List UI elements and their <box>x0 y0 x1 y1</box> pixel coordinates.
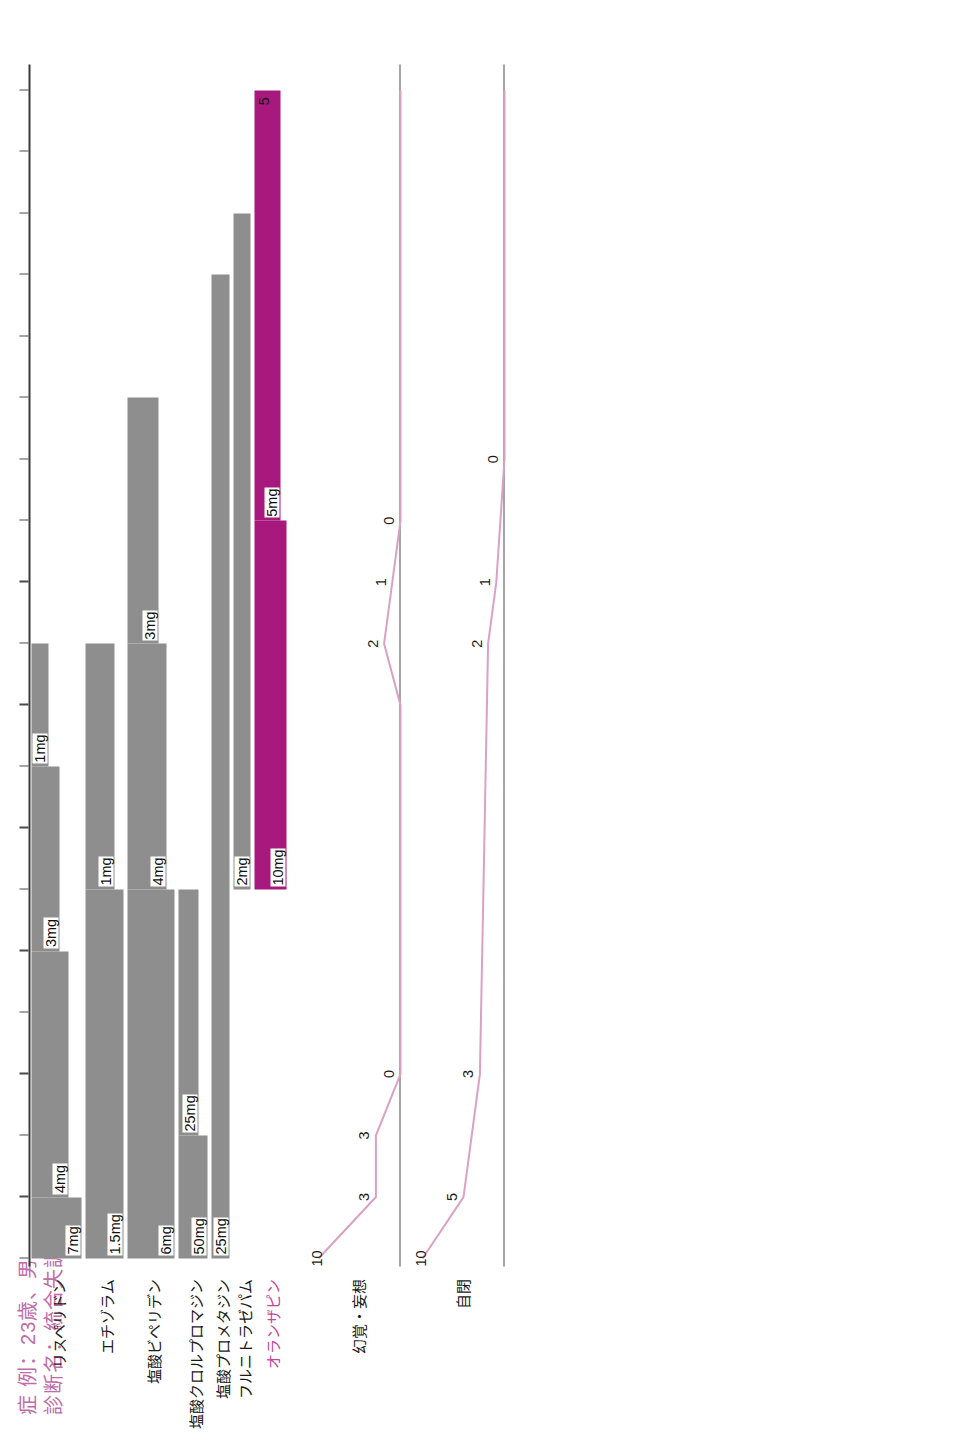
x-tick-mark <box>19 519 28 520</box>
symptom-point-label: 0 <box>484 455 500 463</box>
dose-label: 3mg <box>142 610 157 640</box>
row-name-label: 自閉 <box>451 1278 472 1454</box>
x-tick-mark <box>19 212 28 213</box>
x-tick-mark <box>19 1195 28 1196</box>
symptom-line-svg <box>312 64 400 1266</box>
drug-bar-row: 6mg4mg3mg <box>127 64 174 1266</box>
symptom-point-label: 1 <box>372 578 388 586</box>
dose-segment[interactable] <box>254 520 286 889</box>
dose-segment[interactable] <box>85 643 114 889</box>
dose-segment[interactable] <box>127 889 174 1258</box>
chart-canvas: 症 例：23歳、男 診断名：統合失調症 3/19X年5/115/296/127/… <box>0 0 975 1454</box>
dose-label: 6mg <box>158 1225 173 1255</box>
symptom-point-label: 5 <box>443 1192 459 1200</box>
dose-label: 25mg <box>182 1094 197 1132</box>
x-tick-mark <box>19 888 28 889</box>
symptom-point-label: 1 <box>476 578 492 586</box>
x-tick-mark <box>19 703 28 704</box>
symptom-line-svg <box>416 64 504 1266</box>
dose-label: 4mg <box>52 1163 67 1193</box>
row-name-label: 塩酸クロルプロマジン <box>184 1278 205 1454</box>
x-tick-mark <box>19 335 28 336</box>
dose-label: 7mg <box>65 1225 80 1255</box>
x-tick-mark <box>19 581 28 582</box>
x-tick-mark <box>19 949 28 950</box>
plot-area: 3/19X年5/115/296/127/38/109/149/2810/1210… <box>28 64 682 1266</box>
row-name-label: フルニトラゼパム <box>233 1278 254 1454</box>
symptom-point-label: 3 <box>459 1070 475 1078</box>
row-name-label: オランザピン <box>261 1278 282 1454</box>
row-name-label: エチゾラム <box>95 1278 116 1454</box>
dose-segment[interactable] <box>127 643 166 889</box>
drug-bar-row: 2mg <box>233 64 250 1266</box>
symptom-point-label: 2 <box>364 639 380 647</box>
symptom-line-row: 10330210 <box>312 64 400 1266</box>
dose-segment[interactable] <box>127 397 158 643</box>
dose-label: 4mg <box>150 856 165 886</box>
x-tick-mark <box>19 150 28 151</box>
x-tick-mark <box>19 1257 28 1258</box>
dose-label: 5mg <box>264 487 279 517</box>
dose-label: 10mg <box>270 848 285 886</box>
dose-label: 2mg <box>234 856 249 886</box>
drug-bar-row: 1.5mg1mg <box>85 64 123 1266</box>
dose-label: 50mg <box>191 1217 206 1255</box>
x-tick-mark <box>19 396 28 397</box>
x-tick-mark <box>19 1072 28 1073</box>
x-tick-mark <box>19 458 28 459</box>
symptom-point-label: 0 <box>380 516 396 524</box>
symptom-line <box>422 90 504 1258</box>
symptom-point-label: 0 <box>380 1070 396 1078</box>
symptom-point-label: 10 <box>308 1250 324 1266</box>
dose-segment[interactable] <box>31 951 68 1197</box>
symptom-point-label: 10 <box>412 1250 428 1266</box>
row-name-label: リスペリドン <box>47 1278 68 1454</box>
dose-label: 3mg <box>43 917 58 947</box>
symptom-point-label: 2 <box>468 639 484 647</box>
dose-label: 1.5mg <box>107 1213 122 1255</box>
symptom-line <box>318 90 400 1258</box>
x-tick-mark <box>19 1134 28 1135</box>
dose-segment[interactable] <box>85 889 123 1258</box>
x-tick-mark <box>19 273 28 274</box>
symptom-point-label: 3 <box>355 1192 371 1200</box>
dose-label: 25mg <box>213 1217 228 1255</box>
dose-label: 1mg <box>32 733 47 763</box>
row-name-label: 幻覚・妄想 <box>347 1278 368 1454</box>
x-axis-line <box>28 64 30 1266</box>
dose-segment[interactable] <box>233 213 250 889</box>
dose-label: 1mg <box>98 856 113 886</box>
dose-segment[interactable] <box>254 90 280 520</box>
x-tick-mark <box>19 826 28 827</box>
dose-segment[interactable] <box>211 274 229 1258</box>
dose-end-marker: 5 <box>256 96 271 106</box>
drug-bar-row: 25mg <box>211 64 229 1266</box>
drug-bar-row: 50mg25mg <box>178 64 207 1266</box>
drug-bar-row: 10mg5mg5 <box>254 64 286 1266</box>
symptom-line-row: 1053210 <box>416 64 504 1266</box>
row-name-label: 塩酸ビペリデン <box>142 1278 163 1454</box>
x-tick-mark <box>19 765 28 766</box>
x-tick-mark <box>19 642 28 643</box>
x-tick-mark <box>19 89 28 90</box>
x-tick-mark <box>19 1011 28 1012</box>
row-name-label: 塩酸プロメタジン <box>211 1278 232 1454</box>
drug-bar-row: 7mg4mg3mg1mg <box>31 64 81 1266</box>
symptom-point-label: 3 <box>355 1131 371 1139</box>
